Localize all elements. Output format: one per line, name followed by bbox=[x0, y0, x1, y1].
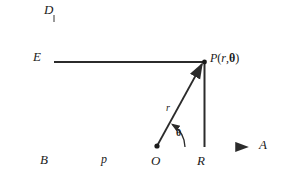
label-point-O: O bbox=[151, 154, 160, 167]
label-point-P-close-paren: ) bbox=[235, 51, 239, 65]
label-segment-r: r bbox=[166, 103, 170, 113]
point-marker-P bbox=[202, 60, 207, 65]
point-marker-O bbox=[154, 143, 159, 148]
label-angle-theta: θ bbox=[176, 128, 181, 138]
label-point-E: E bbox=[33, 50, 41, 63]
label-segment-p: p bbox=[101, 153, 107, 165]
label-point-P: P(r,θ) bbox=[210, 52, 239, 64]
label-axis-right-A: A bbox=[259, 138, 267, 151]
label-point-B: B bbox=[40, 153, 48, 166]
label-point-R: R bbox=[197, 154, 205, 167]
polar-coordinate-diagram: D E A B O R p r θ P(r,θ) bbox=[0, 0, 282, 187]
label-axis-top-D: D bbox=[44, 3, 53, 16]
